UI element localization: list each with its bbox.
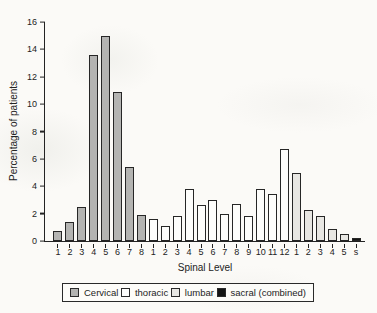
bar-cell [100,22,112,241]
legend-swatch-icon [70,288,79,297]
legend-item-thoracic: thoracic [121,288,168,298]
y-tick-label: 12 [27,72,37,81]
y-tick-mark [40,213,45,214]
x-tick-label: 8 [135,248,147,257]
x-tick-label: 1 [147,248,159,257]
bar-thoracic-11 [268,194,277,241]
legend-swatch-icon [217,288,226,297]
y-tick-label: 6 [32,154,37,163]
bar-cell [124,22,136,241]
bar-cell [350,22,362,241]
bar-cell [147,22,159,241]
bar-thoracic-5 [197,205,206,241]
bar-thoracic-8 [232,204,241,241]
bar-cell [112,22,124,241]
x-tick-label: 6 [207,248,219,257]
bar-cervical-3 [77,207,86,241]
y-tick-label: 2 [32,209,37,218]
bars-row [52,22,362,241]
bar-cell [255,22,267,241]
y-tick-mark [40,131,45,132]
bar-cell [64,22,76,241]
bar-thoracic-7 [220,214,229,241]
figure-canvas: Percentage of patients 0246810121416 123… [0,0,377,313]
bar-lumbar-5 [340,234,349,241]
x-tick-label: 1 [52,248,64,257]
x-tick-label: s [350,248,362,257]
legend-label: Cervical [84,288,118,298]
x-tick-label: 8 [231,248,243,257]
y-tick-label: 16 [27,18,37,27]
bar-lumbar-3 [316,216,325,241]
bar-cell [135,22,147,241]
x-tick-label: 2 [159,248,171,257]
x-tick-label: 2 [64,248,76,257]
bar-cervical-4 [89,55,98,241]
x-tick-label: 7 [219,248,231,257]
y-tick-mark [40,76,45,77]
legend-swatch-icon [171,288,180,297]
bar-cell [243,22,255,241]
bar-cell [76,22,88,241]
y-tick-mark [40,158,45,159]
y-tick-label: 0 [32,237,37,246]
y-tick-mark [40,104,45,105]
x-tick-label: 1 [290,248,302,257]
y-tick-mark [40,49,45,50]
bar-lumbar-2 [304,210,313,241]
x-tick-label: 4 [183,248,195,257]
bar-cell [338,22,350,241]
x-tick-label: 5 [100,248,112,257]
bar-cell [207,22,219,241]
x-axis-title: Spinal Level [45,262,365,273]
bar-cervical-2 [65,222,74,241]
bar-cell [302,22,314,241]
legend-item-sacral: sacral (combined) [217,288,307,298]
bar-cervical-1 [53,231,62,241]
bar-thoracic-6 [208,200,217,241]
bar-thoracic-2 [161,226,170,241]
bar-lumbar-4 [328,229,337,241]
x-tick-label: 4 [88,248,100,257]
bar-cell [171,22,183,241]
y-tick-label: 14 [27,45,37,54]
bar-cell [267,22,279,241]
legend-label: lumbar [185,288,214,298]
bar-cell [195,22,207,241]
bar-cervical-7 [125,167,134,241]
x-tick-label: 9 [243,248,255,257]
bar-cell [88,22,100,241]
bar-cell [159,22,171,241]
x-tick-label: 12 [279,248,291,257]
plot-area: 0246810121416 12345678123456789101112123… [44,22,365,242]
bar-thoracic-1 [149,219,158,241]
legend-swatch-icon [121,288,130,297]
bar-thoracic-9 [244,216,253,241]
x-tick-label: 5 [338,248,350,257]
bar-cell [314,22,326,241]
y-tick-label: 8 [32,127,37,136]
bar-cell [231,22,243,241]
bar-cervical-5 [101,36,110,241]
bar-thoracic-12 [280,149,289,241]
y-tick-label: 10 [27,100,37,109]
x-tick-label: 3 [314,248,326,257]
bar-thoracic-10 [256,189,265,241]
x-tick-label: 4 [326,248,338,257]
y-tick-label: 4 [32,182,37,191]
x-tick-label: 11 [267,248,279,257]
legend-item-cervical: Cervical [70,288,118,298]
y-tick-mark [40,186,45,187]
bar-cell [279,22,291,241]
y-tick-mark [40,240,45,241]
x-tick-label: 10 [255,248,267,257]
bar-lumbar-1 [292,173,301,241]
bar-cell [52,22,64,241]
y-axis-title: Percentage of patients [8,81,19,181]
legend-item-lumbar: lumbar [171,288,214,298]
x-tick-label: 3 [171,248,183,257]
legend-box: Cervicalthoraciclumbarsacral (combined) [62,283,314,302]
legend-label: sacral (combined) [231,288,307,298]
bar-cell [219,22,231,241]
x-tick-label: 3 [76,248,88,257]
